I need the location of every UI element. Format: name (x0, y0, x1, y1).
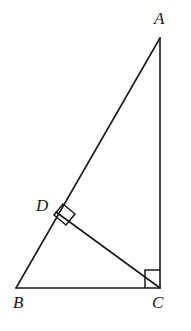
vertex-label-a: A (154, 10, 164, 27)
vertex-label-d: D (36, 197, 48, 214)
vertex-label-c: C (152, 294, 163, 311)
segment-side-AB-hypotenuse (16, 38, 160, 288)
geometry-figure: A B C D (0, 0, 191, 331)
geometry-canvas (0, 0, 191, 331)
right-angle-mark-at-d-icon (54, 204, 75, 225)
vertex-label-b: B (13, 294, 23, 311)
